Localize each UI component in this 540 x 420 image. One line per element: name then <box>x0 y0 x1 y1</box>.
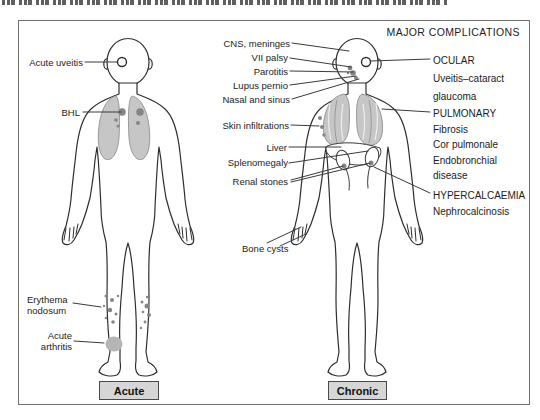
ocular-title: OCULAR <box>433 52 504 70</box>
acute-arthritis-band <box>106 337 123 352</box>
label-bhl: BHL <box>62 107 80 118</box>
hypercalcaemia-line1: Nephrocalcinosis <box>433 204 525 220</box>
chronic-body-drawing <box>291 39 423 377</box>
label-vii-palsy: VII palsy <box>252 52 288 63</box>
hypercalcaemia-title: HYPERCALCAEMIA <box>433 188 525 204</box>
chronic-caption-box: Chronic <box>328 381 387 400</box>
hypercalcaemia-complications-block: HYPERCALCAEMIA Nephrocalcinosis <box>433 188 525 220</box>
label-nasal-sinus: Nasal and sinus <box>222 94 290 105</box>
label-erythema-line1: Erythema <box>27 294 68 305</box>
pulmonary-line2: Cor pulmonale <box>433 137 498 153</box>
ocular-line1: Uveitis–cataract <box>433 70 504 88</box>
label-lupus-pernio: Lupus pernio <box>233 80 288 91</box>
pulmonary-title: PULMONARY <box>433 106 498 122</box>
label-liver: Liver <box>266 142 287 153</box>
acute-eye-circle <box>118 58 127 67</box>
label-acute-arthritis: Acute arthritis <box>41 330 72 352</box>
sarcoidosis-diagram-page: MAJOR COMPLICATIONS Acute uveitis BHL Er… <box>0 0 540 420</box>
label-skin-infiltrations: Skin infiltrations <box>222 120 289 131</box>
ocular-line2: glaucoma <box>433 88 504 106</box>
label-erythema-nodosum: Erythema nodosum <box>27 294 68 316</box>
label-splenomegaly: Splenomegaly <box>228 157 288 168</box>
label-arthritis-line1: Acute <box>41 330 72 341</box>
chronic-eye-circle <box>362 58 371 67</box>
acute-caption-box: Acute <box>99 381 159 400</box>
label-bone-cysts: Bone cysts <box>242 243 288 254</box>
major-complications-heading: MAJOR COMPLICATIONS <box>387 26 520 38</box>
pulmonary-complications-block: PULMONARY Fibrosis Cor pulmonale Endobro… <box>433 106 498 184</box>
pulmonary-line3: Endobronchial <box>433 153 498 169</box>
label-parotitis: Parotitis <box>254 66 288 77</box>
pulmonary-line4: disease <box>433 168 498 184</box>
label-renal-stones: Renal stones <box>233 176 288 187</box>
label-cns-meninges: CNS, meninges <box>223 38 290 49</box>
pulmonary-line1: Fibrosis <box>433 122 498 138</box>
acute-body-drawing <box>62 39 194 377</box>
label-acute-uveitis: Acute uveitis <box>29 57 83 68</box>
chronic-caption-label: Chronic <box>337 385 379 397</box>
ocular-complications-block: OCULAR Uveitis–cataract glaucoma <box>433 52 504 106</box>
label-arthritis-line2: arthritis <box>41 341 72 352</box>
acute-caption-label: Acute <box>114 385 145 397</box>
label-erythema-line2: nodosum <box>27 305 68 316</box>
